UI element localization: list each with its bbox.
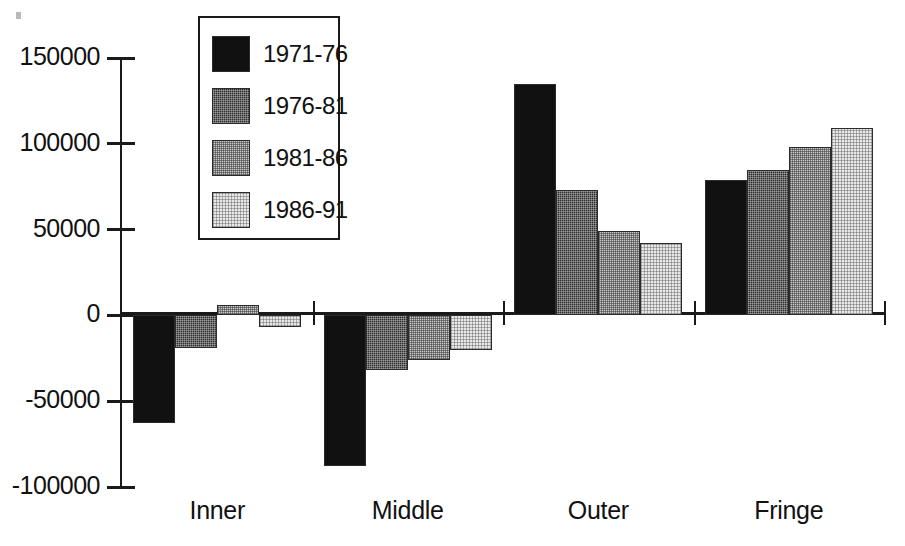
legend-item-1971-76: 1971-76 bbox=[212, 28, 338, 80]
bar-outer-1981-86 bbox=[598, 231, 640, 315]
legend-label: 1971-76 bbox=[263, 40, 348, 68]
legend-label: 1986-91 bbox=[263, 196, 348, 224]
bar-outer-1976-81 bbox=[556, 190, 598, 315]
bar-outer-1986-91 bbox=[640, 243, 682, 315]
y-tick-mark bbox=[107, 314, 135, 317]
y-tick-label: 100000 bbox=[0, 128, 100, 157]
bar-middle-1986-91 bbox=[450, 315, 492, 349]
x-axis-end-cap bbox=[884, 301, 886, 325]
x-group-separator bbox=[313, 301, 315, 325]
bar-inner-1986-91 bbox=[259, 315, 301, 327]
bar-middle-1976-81 bbox=[366, 315, 408, 370]
legend-item-1981-86: 1981-86 bbox=[212, 132, 338, 184]
y-tick-mark bbox=[107, 228, 135, 231]
legend-swatch-icon bbox=[212, 140, 250, 176]
x-label-middle: Middle bbox=[328, 496, 488, 525]
x-label-outer: Outer bbox=[518, 496, 678, 525]
scan-artifact bbox=[16, 12, 21, 19]
y-tick-label: 0 bbox=[0, 299, 100, 328]
y-tick-mark bbox=[107, 486, 135, 489]
y-tick-label: -100000 bbox=[0, 471, 100, 500]
bar-fringe-1986-91 bbox=[831, 128, 873, 315]
bar-outer-1971-76 bbox=[514, 84, 556, 316]
y-tick-mark bbox=[107, 57, 135, 60]
bar-inner-1976-81 bbox=[175, 315, 217, 348]
y-axis-line bbox=[120, 58, 122, 488]
bar-middle-1971-76 bbox=[324, 315, 366, 466]
plot-area: 150000100000500000-50000-100000 InnerMid… bbox=[0, 0, 905, 546]
bar-inner-1971-76 bbox=[133, 315, 175, 423]
bar-chart-figure: 150000100000500000-50000-100000 InnerMid… bbox=[0, 0, 905, 546]
legend-swatch-icon bbox=[212, 36, 250, 72]
bar-fringe-1981-86 bbox=[789, 147, 831, 315]
y-tick-mark bbox=[107, 142, 135, 145]
legend-item-1976-81: 1976-81 bbox=[212, 80, 338, 132]
bar-fringe-1976-81 bbox=[747, 170, 789, 316]
y-tick-mark bbox=[107, 400, 135, 403]
x-group-separator bbox=[694, 301, 696, 325]
legend-label: 1981-86 bbox=[263, 144, 348, 172]
legend-swatch-icon bbox=[212, 192, 250, 228]
bar-middle-1981-86 bbox=[408, 315, 450, 360]
y-tick-label: -50000 bbox=[0, 385, 100, 414]
legend-swatch-icon bbox=[212, 88, 250, 124]
legend-label: 1976-81 bbox=[263, 92, 348, 120]
x-label-inner: Inner bbox=[137, 496, 297, 525]
chart-legend: 1971-761976-811981-861986-91 bbox=[198, 16, 340, 240]
bar-fringe-1971-76 bbox=[705, 180, 747, 316]
legend-item-1986-91: 1986-91 bbox=[212, 184, 338, 236]
bar-inner-1981-86 bbox=[217, 305, 259, 315]
x-group-separator bbox=[503, 301, 505, 325]
x-label-fringe: Fringe bbox=[709, 496, 869, 525]
y-tick-label: 150000 bbox=[0, 42, 100, 71]
y-tick-label: 50000 bbox=[0, 214, 100, 243]
